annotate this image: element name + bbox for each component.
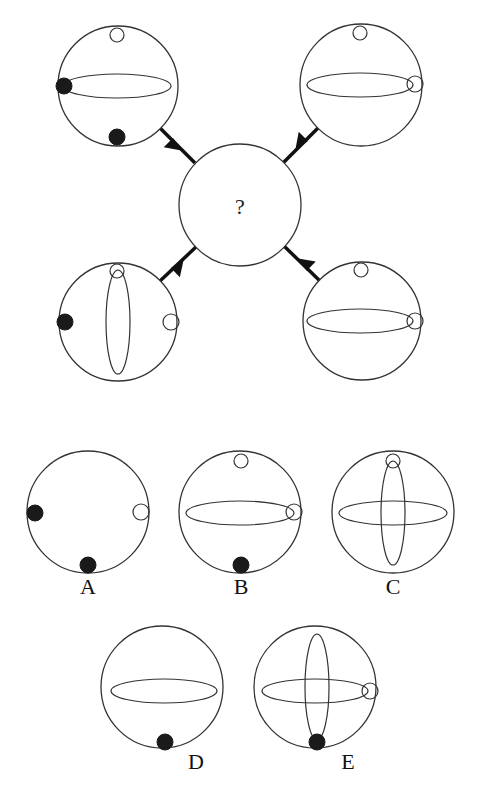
outer-circle — [101, 626, 223, 748]
option-e[interactable] — [254, 626, 378, 750]
black-dot-icon — [57, 314, 73, 330]
option-label-b[interactable]: B — [234, 574, 249, 600]
black-dot-icon — [27, 505, 43, 521]
outer-circle — [179, 451, 301, 573]
figure-top-right — [300, 24, 423, 146]
white-dot-icon — [407, 76, 423, 92]
black-dot-icon — [80, 557, 96, 573]
white-dot-icon — [110, 264, 124, 278]
option-label-a[interactable]: A — [80, 574, 96, 600]
white-dot-icon — [407, 313, 423, 329]
black-dot-icon — [109, 129, 125, 145]
outer-circle — [300, 24, 422, 146]
arrowhead-icon — [164, 138, 183, 151]
option-label-e[interactable]: E — [341, 749, 354, 775]
white-dot-icon — [234, 454, 248, 468]
outer-circle — [254, 626, 376, 748]
white-dot-icon — [354, 263, 368, 277]
answer-options — [27, 451, 454, 750]
figure-bottom-right — [303, 262, 423, 380]
option-d[interactable] — [101, 626, 223, 750]
arrowhead-icon — [295, 132, 308, 151]
black-dot-icon — [157, 734, 173, 750]
white-dot-icon — [353, 26, 367, 40]
black-dot-icon — [309, 734, 325, 750]
outer-circle — [59, 263, 177, 381]
black-dot-icon — [56, 78, 72, 94]
outer-circle — [27, 451, 149, 573]
puzzle-canvas — [0, 0, 482, 802]
white-dot-icon — [133, 504, 149, 520]
outer-circle — [332, 451, 454, 573]
option-a[interactable] — [27, 451, 149, 573]
white-dot-icon — [110, 28, 124, 42]
option-c[interactable] — [332, 451, 454, 573]
option-label-c[interactable]: C — [386, 574, 401, 600]
black-dot-icon — [233, 557, 249, 573]
white-dot-icon — [386, 454, 400, 468]
white-dot-icon — [286, 504, 302, 520]
figure-bottom-left — [57, 263, 179, 381]
question-mark: ? — [235, 194, 245, 220]
arrowhead-icon — [297, 258, 316, 271]
option-label-d[interactable]: D — [188, 749, 204, 775]
figure-top-left — [56, 26, 178, 146]
white-dot-icon — [362, 683, 378, 699]
outer-circle — [58, 26, 178, 146]
white-dot-icon — [163, 314, 179, 330]
arrowhead-icon — [171, 258, 184, 277]
option-b[interactable] — [179, 451, 302, 573]
outer-circle — [303, 262, 421, 380]
